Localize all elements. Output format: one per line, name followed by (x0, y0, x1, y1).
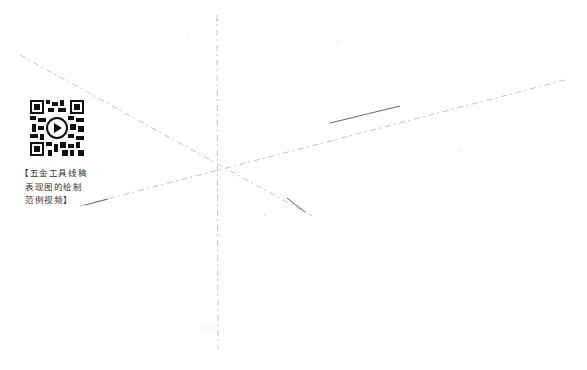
caption-line-2: 表现图的绘制 (20, 181, 110, 195)
qr-caption: 【五金工具线稿 表现图的绘制 范例视频】 (20, 167, 110, 208)
caption-line-1: 【五金工具线稿 (20, 167, 110, 181)
right-receding-line (80, 80, 565, 206)
vertical-axis-line (217, 15, 218, 350)
qr-code-with-play-icon[interactable] (30, 100, 84, 156)
caption-line-3: 范例视频】 (20, 194, 110, 208)
